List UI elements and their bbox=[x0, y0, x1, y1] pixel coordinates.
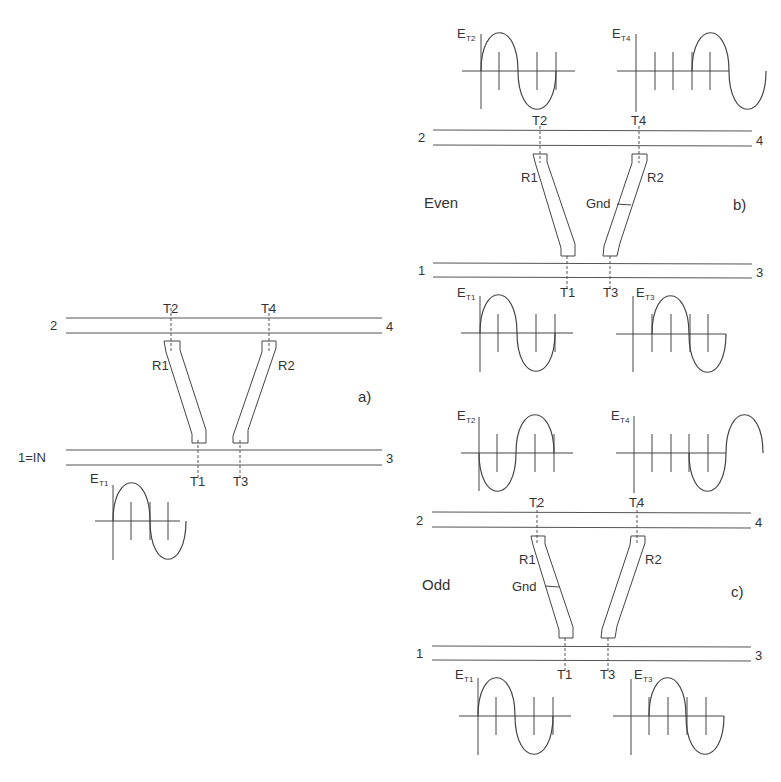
waveform-et3-even: E T3 bbox=[616, 285, 726, 372]
waveform-et3-odd: E T3 bbox=[613, 667, 724, 755]
port-3-label: 3 bbox=[756, 265, 763, 280]
waveform-et4-odd: E T4 bbox=[611, 408, 763, 493]
waveform-sub: T1 bbox=[99, 479, 109, 488]
tap-t3-label: T3 bbox=[603, 285, 618, 300]
panel-a-tag: a) bbox=[358, 388, 371, 405]
ground-label: Gnd bbox=[512, 579, 537, 594]
port-1-label: 1 bbox=[418, 263, 425, 278]
panel-a: 2 4 1=IN 3 T2 T4 T1 T3 R1 R2 a) E T1 bbox=[18, 301, 393, 560]
waveform-label: E bbox=[455, 667, 464, 682]
waveform-et4-even: E T4 bbox=[612, 26, 766, 112]
tap-t1-label: T1 bbox=[190, 474, 205, 489]
port-1-label: 1=IN bbox=[18, 450, 46, 465]
line-1-3-lower bbox=[433, 277, 752, 278]
waveform-sub: T1 bbox=[464, 675, 474, 684]
tap-t1-label: T1 bbox=[557, 667, 572, 682]
resonator-r1-label: R1 bbox=[519, 552, 536, 567]
resonator-r2-label: R2 bbox=[278, 358, 295, 373]
panel-b-tag: b) bbox=[733, 196, 746, 213]
waveform-sub: T3 bbox=[645, 293, 655, 302]
port-3-label: 3 bbox=[386, 451, 393, 466]
coupled-resonator-figure: 2 4 1=IN 3 T2 T4 T1 T3 R1 R2 a) E T1 bbox=[0, 0, 781, 782]
waveform-sub: T3 bbox=[643, 675, 653, 684]
port-4-label: 4 bbox=[386, 319, 393, 334]
tap-t4-label: T4 bbox=[261, 301, 276, 316]
waveform-sub: T2 bbox=[466, 416, 476, 425]
line-1-3-lower bbox=[432, 660, 751, 661]
resonator-r2-label: R2 bbox=[647, 170, 664, 185]
tap-t4-label: T4 bbox=[631, 113, 646, 128]
port-3-label: 3 bbox=[755, 648, 762, 663]
tap-t2-label: T2 bbox=[532, 113, 547, 128]
waveform-label: E bbox=[457, 408, 466, 423]
mode-label-even: Even bbox=[424, 194, 458, 211]
line-2-4-upper bbox=[432, 512, 751, 513]
resonator-r2-label: R2 bbox=[645, 552, 662, 567]
panel-b: E T2 E T4 2 4 1 3 bbox=[418, 26, 766, 372]
tap-t3-label: T3 bbox=[233, 474, 248, 489]
figure-canvas: 2 4 1=IN 3 T2 T4 T1 T3 R1 R2 a) E T1 bbox=[0, 0, 781, 782]
resonator-r2 bbox=[601, 536, 645, 638]
port-2-label: 2 bbox=[418, 130, 425, 145]
waveform-et1-even: E T1 bbox=[457, 285, 573, 372]
tap-t4-label: T4 bbox=[629, 495, 644, 510]
waveform-et1: E T1 bbox=[90, 471, 186, 560]
waveform-sub: T4 bbox=[620, 416, 630, 425]
waveform-label: E bbox=[611, 408, 620, 423]
ground-line bbox=[545, 586, 559, 587]
tap-t2-label: T2 bbox=[529, 495, 544, 510]
line-1-3-upper bbox=[432, 646, 751, 647]
port-1-label: 1 bbox=[416, 646, 423, 661]
waveform-label: E bbox=[634, 667, 643, 682]
waveform-label: E bbox=[636, 285, 645, 300]
waveform-label: E bbox=[457, 26, 466, 41]
tap-t3-label: T3 bbox=[600, 667, 615, 682]
resonator-r1 bbox=[164, 341, 206, 443]
port-2-label: 2 bbox=[416, 513, 423, 528]
line-2-4-upper bbox=[433, 130, 752, 131]
panel-c: E T2 E T4 2 4 1 3 bbox=[416, 408, 763, 755]
tap-t1-label: T1 bbox=[560, 285, 575, 300]
line-1-3-upper bbox=[433, 263, 752, 264]
resonator-r1-label: R1 bbox=[152, 358, 169, 373]
waveform-sub: T4 bbox=[621, 34, 631, 43]
waveform-label: E bbox=[457, 285, 466, 300]
resonator-r1 bbox=[533, 154, 575, 256]
panel-c-tag: c) bbox=[731, 583, 744, 600]
waveform-sub: T2 bbox=[466, 34, 476, 43]
waveform-et1-odd: E T1 bbox=[455, 667, 571, 755]
waveform-label: E bbox=[612, 26, 621, 41]
port-4-label: 4 bbox=[756, 133, 763, 148]
waveform-label: E bbox=[90, 471, 99, 486]
ground-label: Gnd bbox=[586, 196, 611, 211]
waveform-et2-even: E T2 bbox=[457, 26, 575, 109]
waveform-et2-odd: E T2 bbox=[457, 408, 573, 491]
port-2-label: 2 bbox=[50, 318, 57, 333]
waveform-sub: T1 bbox=[466, 293, 476, 302]
port-4-label: 4 bbox=[755, 515, 762, 530]
tap-t2-label: T2 bbox=[163, 301, 178, 316]
ground-line bbox=[617, 204, 631, 205]
line-2-4-lower bbox=[433, 145, 752, 146]
resonator-r1-label: R1 bbox=[521, 170, 538, 185]
line-2-4-lower bbox=[432, 527, 751, 528]
mode-label-odd: Odd bbox=[422, 576, 450, 593]
resonator-r2 bbox=[233, 341, 276, 443]
